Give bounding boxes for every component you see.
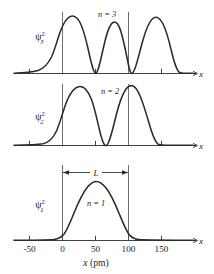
axis-label-x-n1: x	[198, 236, 204, 246]
n-label-n2: n = 2	[101, 87, 119, 96]
psi-label-n3: ψ23	[35, 30, 45, 45]
axis-label-x-n3: x	[198, 69, 204, 79]
axis-label-x-n2: x	[198, 141, 204, 151]
n-label-n1: n = 1	[87, 199, 105, 208]
x-axis-title: x (pm)	[82, 257, 108, 269]
panel-n1: L n = 1 ψ21 x	[14, 165, 204, 246]
x-tick-labels: -50 0 50 100 150	[23, 244, 168, 254]
well-width-label: L	[92, 168, 98, 178]
x-tick-label-0: 0	[60, 244, 65, 254]
psi-label-n2: ψ22	[35, 110, 45, 125]
x-tick-label-100: 100	[122, 244, 136, 254]
panel-n2: n = 2 ψ22 x	[14, 84, 204, 151]
x-tick-label-50: 50	[91, 244, 101, 254]
x-tick-label-150: 150	[155, 244, 169, 254]
x-tick-label--50: -50	[23, 244, 36, 254]
width-arrow-head-left	[63, 170, 69, 175]
psi-label-n1: ψ21	[35, 198, 45, 213]
wavefunction-figure: n = 3 ψ23 x n = 2 ψ22 x	[0, 0, 214, 274]
width-arrow-head-right	[122, 170, 128, 175]
well-width-indicator: L	[63, 167, 128, 178]
n-label-n3: n = 3	[98, 10, 116, 19]
panel-n3: n = 3 ψ23 x	[14, 10, 204, 79]
figure-svg: n = 3 ψ23 x n = 2 ψ22 x	[0, 0, 214, 274]
